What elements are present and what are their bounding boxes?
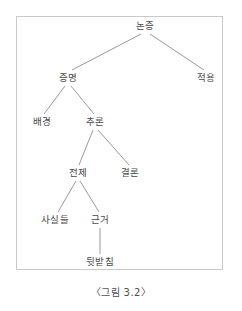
tree-node-n1: 증명: [59, 73, 77, 83]
tree-node-n8: 근거: [91, 215, 109, 225]
tree-node-n5: 전제: [69, 168, 87, 178]
tree-node-n3: 배경: [33, 117, 51, 127]
figure-container: 논증증명적용배경추론전제결론사실들근거뒷받침 〈그림 3.2〉: [0, 0, 242, 311]
tree-node-n4: 추론: [86, 117, 104, 127]
tree-node-n9: 뒷받침: [86, 257, 114, 267]
tree-node-n6: 결론: [121, 168, 139, 178]
tree-node-n0: 논증: [136, 21, 154, 31]
figure-caption: 〈그림 3.2〉: [0, 284, 242, 299]
tree-node-n7: 사실들: [41, 215, 69, 225]
figure-frame-border: [16, 16, 223, 270]
tree-node-n2: 적용: [197, 73, 215, 83]
